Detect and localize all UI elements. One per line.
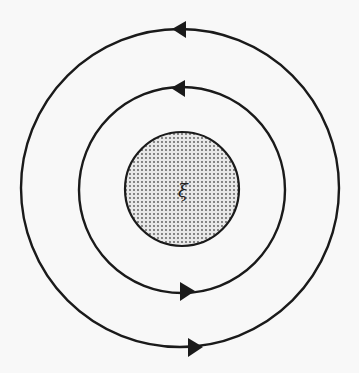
- arrow-left-icon: [171, 80, 185, 97]
- arrow-right-icon: [188, 338, 203, 357]
- arrow-right-icon: [180, 282, 195, 301]
- circulation-diagram: ξ: [0, 0, 359, 373]
- xi-label: ξ: [178, 180, 189, 201]
- arrow-left-icon: [172, 21, 186, 38]
